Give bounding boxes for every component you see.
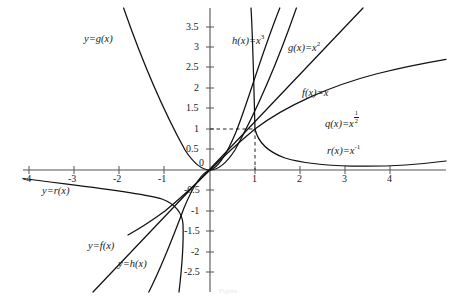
x-tick-label-4: 4: [387, 173, 392, 184]
y-tick-label-0: 0: [199, 157, 204, 168]
x-tick-label--2: -2: [113, 173, 121, 184]
curve-f: [93, 8, 363, 292]
y-tick-label--2: -2: [191, 246, 199, 257]
function-label-r: r(x)=x-1: [327, 143, 360, 156]
x-tick-label--1: -1: [158, 173, 166, 184]
figure-canvas: -4 -3 -2 -1 1 2 3 4 3.5 3 2.5 2 1.5 1 0.…: [0, 0, 456, 299]
y-tick-label-1: 1: [194, 123, 199, 134]
function-label-q-exponent: 12: [354, 110, 359, 124]
figure-caption: Figure: [0, 287, 456, 295]
y-tick-label-3: 3: [194, 41, 199, 52]
y-tick-label--1: -1: [191, 205, 199, 216]
function-label-g: g(x)=x2: [288, 40, 320, 53]
x-tick-label-1: 1: [252, 173, 257, 184]
y-tick-label--2.5: -2.5: [184, 266, 200, 277]
y-tick-label--1.5: -1.5: [184, 225, 200, 236]
function-label-f-lhs: f(x)=x: [302, 87, 328, 98]
y-tick-label-2: 2: [194, 82, 199, 93]
x-tick-label-2: 2: [297, 173, 302, 184]
x-tick-label--4: -4: [23, 173, 31, 184]
x-tick-label-3: 3: [342, 173, 347, 184]
curve-label-y-r-x: y=r(x): [42, 185, 70, 196]
function-label-h-exponent: 3: [261, 33, 265, 41]
curve-label-y-f-x: y=f(x): [88, 240, 114, 251]
x-tick-label--3: -3: [68, 173, 76, 184]
y-tick-label--0.5: -0.5: [184, 184, 200, 195]
function-label-h-lhs: h(x)=x: [232, 35, 261, 46]
function-label-h: h(x)=x3: [232, 33, 264, 46]
function-label-q-lhs: q(x)=x: [325, 118, 354, 129]
function-label-r-exponent: -1: [355, 143, 361, 151]
y-tick-label-3.5: 3.5: [186, 21, 199, 32]
y-tick-label-1.5: 1.5: [186, 102, 199, 113]
function-label-g-exponent: 2: [317, 40, 321, 48]
y-tick-label-0.5: 0.5: [186, 143, 199, 154]
function-label-r-lhs: r(x)=x: [327, 145, 355, 156]
y-tick-label-2.5: 2.5: [186, 61, 199, 72]
curve-label-y-h-x: y=h(x): [118, 258, 147, 269]
exponent-denominator: 2: [354, 118, 359, 125]
curve-label-y-g-x: y=g(x): [84, 33, 113, 44]
function-label-f: f(x)=x: [302, 87, 328, 98]
function-label-g-lhs: g(x)=x: [288, 42, 317, 53]
curve-h: [149, 8, 280, 292]
graph-svg: [0, 0, 456, 299]
function-label-q: q(x)=x12: [325, 110, 359, 129]
